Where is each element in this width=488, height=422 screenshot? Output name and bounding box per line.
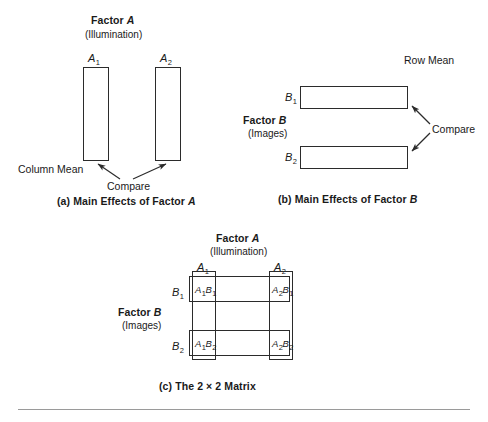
panel-a-column-1-bar [83, 67, 109, 161]
panel-a-column-1-label: A1 [88, 53, 100, 64]
panel-b-row-1-bar [300, 86, 408, 109]
panel-b-row-2-bar [300, 146, 408, 169]
panel-a-caption: (a) Main Effects of Factor A [57, 196, 196, 207]
panel-b-compare-arrows [412, 106, 430, 151]
panel-b-row-2-label: B2 [285, 152, 297, 163]
panel-c-cell-a1b1: A1B1 [195, 285, 216, 295]
panel-c-factor-b-heading: Factor B [118, 307, 161, 318]
panel-c-cell-a1b2: A1B2 [195, 339, 216, 349]
panel-c-caption: (c) The 2 × 2 Matrix [159, 381, 256, 392]
panel-a-compare-label: Compare [107, 181, 150, 192]
panel-a-subheading: (Illumination) [85, 30, 142, 40]
panel-b-row-1-label: B1 [285, 92, 297, 103]
panel-b-row-mean-label: Row Mean [404, 55, 454, 66]
panel-a-column-2-bar [155, 67, 181, 161]
panel-b-compare-label: Compare [432, 124, 475, 135]
panel-a-heading: Factor A [91, 15, 134, 26]
panel-b-subheading: (Images) [248, 129, 287, 139]
panel-a-column-2-label: A2 [160, 53, 172, 64]
bottom-divider [18, 409, 470, 410]
panel-a-column-mean-label: Column Mean [18, 164, 83, 175]
panel-c-row-1-label: B1 [172, 287, 184, 298]
panel-b-caption: (b) Main Effects of Factor B [278, 194, 417, 205]
panel-c-subheading: (Illumination) [210, 247, 267, 257]
panel-a-compare-arrows [98, 164, 166, 179]
panel-c-row-2-label: B2 [172, 341, 184, 352]
anova-factorial-design-figure: Factor A (Illumination) A1 A2 Column Mea… [0, 0, 488, 422]
panel-c-factor-b-subheading: (Images) [122, 321, 161, 331]
panel-c-cell-a2b1: A2B1 [272, 285, 293, 295]
panel-c-heading: Factor A [216, 233, 259, 244]
panel-b-factor-heading: Factor B [243, 115, 286, 126]
panel-c-cell-a2b2: A2B2 [272, 339, 293, 349]
